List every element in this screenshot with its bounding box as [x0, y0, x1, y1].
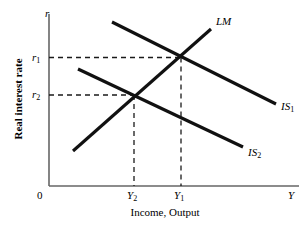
is-lm-chart: r r1 r2 0 Y2 Y1 Y LM IS1 IS2 Real intere… — [0, 0, 306, 226]
lm-curve — [73, 29, 211, 151]
x-axis-title: Income, Output — [49, 207, 281, 218]
x-tick-y2-sub: 2 — [133, 194, 137, 203]
is1-curve-label: IS1 — [281, 101, 294, 114]
x-tick-y1-sub: 1 — [180, 194, 184, 203]
is1-curve — [112, 22, 276, 104]
is2-label-sub: 2 — [257, 151, 261, 160]
is2-curve — [78, 69, 243, 147]
x-tick-label-y2: Y2 — [127, 190, 137, 203]
y-tick-label-r2: r2 — [32, 89, 40, 102]
x-tick-label-y1: Y1 — [174, 190, 184, 203]
chart-canvas — [0, 0, 306, 226]
is2-label-base: IS — [248, 146, 257, 158]
is1-label-sub: 1 — [290, 105, 294, 114]
origin-label: 0 — [37, 190, 43, 201]
y-axis-title: Real interest rate — [12, 34, 24, 164]
y-tick-label-r1: r1 — [32, 52, 40, 65]
y-tick-r2-sub: 2 — [36, 93, 40, 102]
y-axis-variable-label: r — [45, 8, 49, 19]
guide-lines-group — [49, 58, 181, 187]
y-tick-r1-sub: 1 — [36, 56, 40, 65]
lm-curve-label: LM — [216, 16, 231, 27]
is1-label-base: IS — [281, 100, 290, 112]
axes-group — [49, 14, 299, 186]
curves-group — [73, 22, 276, 151]
is2-curve-label: IS2 — [248, 147, 261, 160]
x-axis-variable-label: Y — [288, 190, 294, 201]
